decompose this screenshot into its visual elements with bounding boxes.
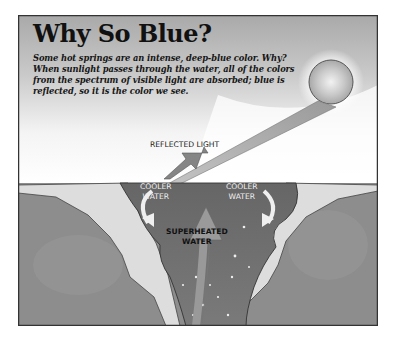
diagram-description: Some hot springs are an intense, deep-bl…: [33, 53, 313, 97]
label-line: SUPERHEATED: [166, 227, 228, 237]
label-line: WATER: [166, 237, 228, 247]
diagram-frame: Why So Blue? Some hot springs are an int…: [18, 15, 378, 326]
label-line: COOLER: [140, 182, 172, 192]
label-line: WATER: [226, 192, 258, 202]
label-line: COOLER: [226, 182, 258, 192]
cooler-water-left-label: COOLER WATER: [140, 182, 172, 202]
cooler-water-right-label: COOLER WATER: [226, 182, 258, 202]
diagram-title: Why So Blue?: [33, 22, 212, 46]
reflected-light-label: REFLECTED LIGHT: [150, 140, 219, 150]
superheated-water-label: SUPERHEATED WATER: [166, 227, 228, 247]
label-line: WATER: [140, 192, 172, 202]
